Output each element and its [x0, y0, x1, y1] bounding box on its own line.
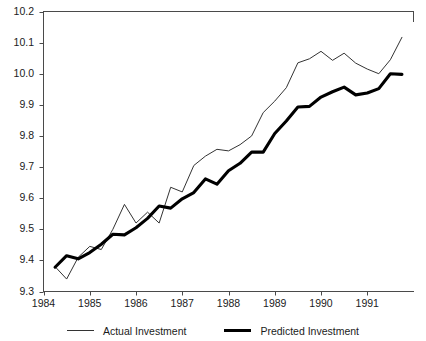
axis-lines — [44, 11, 415, 292]
y-axis-tick-label: 9.5 — [2, 223, 34, 234]
y-axis-tick-label: 9.3 — [2, 286, 34, 297]
y-axis-tick-label: 10.1 — [2, 37, 34, 48]
y-axis-tick-label: 9.9 — [2, 99, 34, 110]
x-axis-tick-label: 1984 — [22, 298, 66, 309]
x-axis-tick-label: 1989 — [253, 298, 297, 309]
x-axis-tick-label: 1991 — [345, 298, 389, 309]
y-axis-tick-label: 10.2 — [2, 6, 34, 17]
x-axis-tick-label: 1990 — [299, 298, 343, 309]
chart-legend: Actual Investment Predicted Investment — [0, 320, 426, 341]
x-axis-tick-label: 1988 — [207, 298, 251, 309]
plot-area — [0, 0, 426, 341]
line-swatch-icon — [224, 329, 251, 332]
y-axis-tick-marks — [40, 13, 44, 293]
legend-item-actual-investment: Actual Investment — [67, 325, 186, 337]
x-axis-tick-marks — [45, 292, 368, 296]
investment-line-chart-figure: 9.39.49.59.69.79.89.910.010.110.2 198419… — [0, 0, 426, 341]
legend-label-actual-investment: Actual Investment — [103, 325, 186, 337]
y-axis-tick-label: 9.4 — [2, 254, 34, 265]
series-line-predicted-investment — [55, 74, 402, 268]
legend-item-predicted-investment: Predicted Investment — [224, 325, 359, 337]
y-axis-tick-label: 9.8 — [2, 130, 34, 141]
x-axis-tick-label: 1985 — [68, 298, 112, 309]
y-axis-tick-label: 9.7 — [2, 161, 34, 172]
x-axis-tick-label: 1987 — [160, 298, 204, 309]
series-line-actual-investment — [55, 37, 402, 279]
line-swatch-icon — [67, 330, 94, 331]
x-axis-tick-label: 1986 — [114, 298, 158, 309]
y-axis-tick-label: 10.0 — [2, 68, 34, 79]
y-axis-tick-label: 9.6 — [2, 192, 34, 203]
legend-label-predicted-investment: Predicted Investment — [260, 325, 359, 337]
